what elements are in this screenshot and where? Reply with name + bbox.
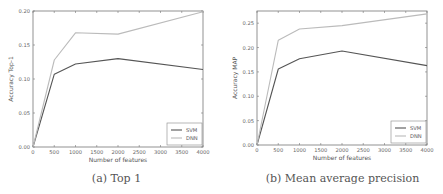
- x-tick-label: 1500: [90, 149, 103, 155]
- y-tick-label: 0.20: [18, 8, 30, 14]
- x-tick-label: 0: [31, 149, 34, 155]
- legend-label-svm: SVM: [186, 127, 197, 133]
- line-chart-top1: 0.000.050.100.150.2005001000150020002500…: [0, 0, 221, 170]
- chart-panel-top1: 0.000.050.100.150.2005001000150020002500…: [0, 0, 221, 194]
- x-axis-label: Number of features: [313, 154, 372, 161]
- x-tick-label: 500: [273, 147, 283, 153]
- y-tick-label: 0.10: [18, 76, 30, 82]
- y-tick-label: 0.00: [242, 142, 254, 148]
- y-tick-label: 0.15: [18, 42, 30, 48]
- legend: SVMDNN: [167, 123, 202, 145]
- x-tick-label: 1000: [69, 149, 82, 155]
- y-axis-label: Accuracy Top-1: [7, 56, 15, 102]
- x-tick-label: 3500: [399, 147, 412, 153]
- x-tick-label: 4000: [420, 147, 433, 153]
- y-tick-label: 0.20: [242, 45, 254, 51]
- y-tick-label: 0.00: [18, 144, 30, 150]
- x-tick-label: 500: [49, 149, 59, 155]
- y-tick-label: 0.25: [242, 20, 254, 26]
- x-tick-label: 2500: [133, 149, 146, 155]
- line-chart-map: 0.000.050.100.150.200.250500100015002000…: [222, 0, 443, 170]
- x-tick-label: 1500: [314, 147, 327, 153]
- x-tick-label: 2500: [357, 147, 370, 153]
- legend-label-svm: SVM: [410, 125, 421, 131]
- x-tick-label: 3500: [175, 149, 188, 155]
- legend: SVMDNN: [391, 121, 426, 143]
- legend-label-dnn: DNN: [410, 133, 422, 139]
- y-axis-label: Accuracy MAP: [231, 57, 239, 100]
- y-tick-label: 0.10: [242, 93, 254, 99]
- y-tick-label: 0.15: [242, 69, 254, 75]
- y-tick-label: 0.05: [242, 118, 254, 124]
- y-tick-label: 0.05: [18, 110, 30, 116]
- legend-label-dnn: DNN: [186, 135, 198, 141]
- x-tick-label: 3000: [378, 147, 391, 153]
- x-tick-label: 4000: [196, 149, 209, 155]
- x-tick-label: 1000: [293, 147, 306, 153]
- x-axis-label: Number of features: [89, 156, 148, 163]
- figure-caption: (b) Mean average precision: [232, 172, 443, 185]
- chart-panel-map: 0.000.050.100.150.200.250500100015002000…: [222, 0, 443, 194]
- x-tick-label: 2000: [111, 149, 124, 155]
- x-tick-label: 0: [255, 147, 258, 153]
- x-tick-label: 2000: [335, 147, 348, 153]
- x-tick-label: 3000: [154, 149, 167, 155]
- figure-caption: (a) Top 1: [6, 172, 227, 185]
